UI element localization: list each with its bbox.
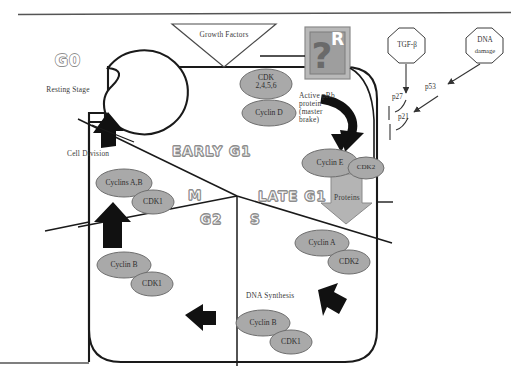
g0-title: G0: [46, 52, 90, 69]
complex-label-cdk2-e: CDK2: [348, 164, 384, 172]
cell-division-annotation: Cell Division: [67, 150, 109, 158]
complex-label-cdk1-g2: CDK1: [134, 280, 170, 288]
complex-label-cyclins-ab: Cyclins A,B: [96, 179, 152, 187]
complex-label-cyclin-d: Cyclin D: [243, 109, 295, 117]
complex-label-cdk-2456: CDK 2,4,5,6: [240, 74, 292, 90]
p53-label: p53: [425, 84, 436, 92]
restriction-point-label: R: [331, 30, 344, 48]
p21-label: p21: [398, 114, 409, 122]
g0-subtitle: Resting Stage: [32, 86, 104, 94]
complex-label-cyclin-b-s: Cyclin B: [237, 319, 289, 327]
complex-label-cyclin-b-g2: Cyclin B: [98, 261, 150, 269]
phase-label-early-g1: EARLY G1: [172, 144, 252, 159]
complex-label-cdk1-ab: CDK1: [135, 198, 171, 206]
dna-damage-label-line2: damage: [461, 47, 509, 54]
complex-label-cyclin-a: Cyclin A: [296, 239, 348, 247]
dna-synthesis-annotation: DNA Synthesis: [246, 292, 294, 300]
phase-label-m: M: [188, 188, 202, 203]
complex-label-cdk2-a: CDK2: [331, 258, 367, 266]
phase-label-s: S: [250, 212, 261, 227]
p27-label: p27: [392, 94, 403, 102]
dna-damage-label-line1: DNA: [461, 37, 509, 45]
phase-label-g2: G2: [200, 212, 222, 227]
complex-label-cdk1-s: CDK1: [273, 338, 309, 346]
phase-label-late-g1: LATE G1: [258, 189, 327, 204]
growth-factors-label: Growth Factors: [180, 31, 268, 39]
active-prb-annotation: Active pRb protein (master brake): [299, 92, 345, 124]
proteins-block-label: Proteins: [324, 194, 370, 202]
tgf-beta-label: TGF-β: [381, 42, 433, 50]
cell-cycle-diagram: ?: [0, 0, 521, 389]
